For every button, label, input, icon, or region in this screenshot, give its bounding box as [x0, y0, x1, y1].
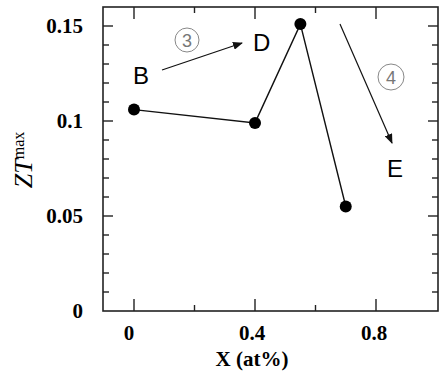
chart: 0 0.05 0.1 0.15 0 0.4 0.8 X (at%) ZTmax … [0, 0, 445, 375]
arrow-d-to-e [340, 24, 392, 143]
data-point [294, 18, 306, 30]
y-tick-label: 0.1 [57, 109, 83, 133]
y-tick-label: 0 [73, 299, 84, 323]
arrow-b-to-d [162, 43, 242, 70]
x-tick-label: 0.4 [239, 321, 266, 345]
annotation-d: D [253, 29, 270, 56]
annotation-e: E [387, 155, 403, 182]
annotation-b: B [133, 62, 149, 89]
x-axis-title: X (at%) [216, 347, 289, 371]
y-tick-label: 0.15 [46, 14, 83, 38]
x-tick-label: 0.8 [361, 321, 387, 345]
x-tick-label: 0 [124, 321, 135, 345]
y-axis-title: ZTmax [9, 132, 38, 188]
series-markers [128, 18, 352, 212]
svg-text:ZTmax: ZTmax [9, 132, 38, 188]
data-point [128, 104, 140, 116]
series-line [134, 24, 346, 206]
circled-number-4-text: 4 [386, 68, 396, 88]
circled-number-3-text: 3 [182, 31, 192, 51]
data-point [249, 117, 261, 129]
y-axis-title-sub: max [10, 132, 27, 160]
y-tick-labels: 0 0.05 0.1 0.15 [46, 14, 83, 323]
data-point [340, 201, 352, 213]
x-tick-labels: 0 0.4 0.8 [124, 321, 387, 345]
y-tick-label: 0.05 [46, 204, 83, 228]
y-axis-title-main: ZT [9, 158, 38, 188]
